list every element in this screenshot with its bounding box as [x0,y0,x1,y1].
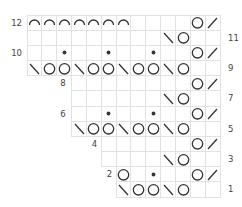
ssk-backslash-icon [72,121,87,136]
bind-off-arc-icon [101,15,116,30]
yarn-over-circle-icon [176,30,191,45]
yarn-over-circle-icon [146,121,161,136]
yarn-over-circle-icon [86,121,101,136]
chart-cell [130,136,146,152]
yarn-over-circle-icon [86,61,101,76]
chart-cell [160,106,176,122]
chart-cell [130,15,146,31]
chart-cell [205,30,221,46]
chart-cell [86,45,102,61]
row-number-label: 12 [11,18,22,28]
chart-cell [116,45,132,61]
chart-cell [130,166,146,182]
chart-cell [175,75,191,91]
yarn-over-circle-icon [146,182,161,197]
row-number-label: 11 [228,33,239,43]
chart-cell [130,45,146,61]
chart-cell [86,106,102,122]
chart-cell [190,30,206,46]
yarn-over-circle-icon [131,121,146,136]
purl-dot-icon [146,106,161,121]
ssk-backslash-icon [72,61,87,76]
bind-off-arc-icon [116,15,131,30]
chart-cell [86,90,102,106]
row-number-label: 3 [228,154,233,164]
chart-cell [116,75,132,91]
chart-cell [145,136,161,152]
yarn-over-circle-icon [190,106,205,121]
bind-off-arc-icon [57,15,72,30]
chart-cell [71,106,87,122]
chart-cell [101,30,117,46]
chart-cell [41,30,57,46]
bind-off-arc-icon [86,15,101,30]
ssk-backslash-icon [161,152,176,167]
chart-cell [101,75,117,91]
bind-off-arc-icon [42,15,57,30]
chart-cell [175,45,191,61]
row-number-label: 8 [60,78,65,88]
chart-cell [160,75,176,91]
chart-cell [145,30,161,46]
chart-cell [205,90,221,106]
yarn-over-circle-icon [101,121,116,136]
chart-cell [160,166,176,182]
chart-cell [130,151,146,167]
row-number-label: 10 [11,48,22,58]
yarn-over-circle-icon [42,61,57,76]
chart-cell [71,30,87,46]
k2tog-slash-icon [205,167,220,182]
row-number-label: 6 [60,109,65,119]
yarn-over-circle-icon [176,61,191,76]
chart-cell [86,30,102,46]
ssk-backslash-icon [116,121,131,136]
k2tog-slash-icon [205,45,220,60]
bind-off-arc-icon [27,15,42,30]
k2tog-slash-icon [205,136,220,151]
row-number-label: 5 [228,124,233,134]
purl-dot-icon [101,45,116,60]
purl-dot-icon [101,106,116,121]
chart-cell [175,166,191,182]
chart-cell [205,181,221,197]
yarn-over-circle-icon [176,121,191,136]
chart-cell [145,90,161,106]
chart-cell [56,30,72,46]
chart-cell [160,45,176,61]
row-number-label: 9 [228,63,233,73]
chart-cell [130,90,146,106]
k2tog-slash-icon [205,106,220,121]
yarn-over-circle-icon [190,15,205,30]
chart-cell [101,151,117,167]
chart-cell [101,90,117,106]
chart-cell [160,136,176,152]
k2tog-slash-icon [205,15,220,30]
chart-cell [190,60,206,76]
chart-cell [27,45,43,61]
ssk-backslash-icon [116,61,131,76]
yarn-over-circle-icon [131,61,146,76]
chart-cell [145,75,161,91]
chart-cell [86,75,102,91]
row-number-label: 2 [107,169,112,179]
ssk-backslash-icon [161,182,176,197]
ssk-backslash-icon [161,91,176,106]
chart-cell [190,151,206,167]
chart-cell [145,15,161,31]
chart-cell [205,60,221,76]
ssk-backslash-icon [27,61,42,76]
k2tog-slash-icon [205,76,220,91]
ssk-backslash-icon [116,182,131,197]
purl-dot-icon [146,167,161,182]
chart-cell [116,151,132,167]
purl-dot-icon [146,45,161,60]
chart-cell [27,30,43,46]
chart-cell [116,90,132,106]
chart-cell [101,136,117,152]
chart-cell [205,121,221,137]
yarn-over-circle-icon [190,167,205,182]
row-number-label: 1 [228,184,233,194]
yarn-over-circle-icon [101,61,116,76]
chart-cell [116,136,132,152]
yarn-over-circle-icon [176,182,191,197]
